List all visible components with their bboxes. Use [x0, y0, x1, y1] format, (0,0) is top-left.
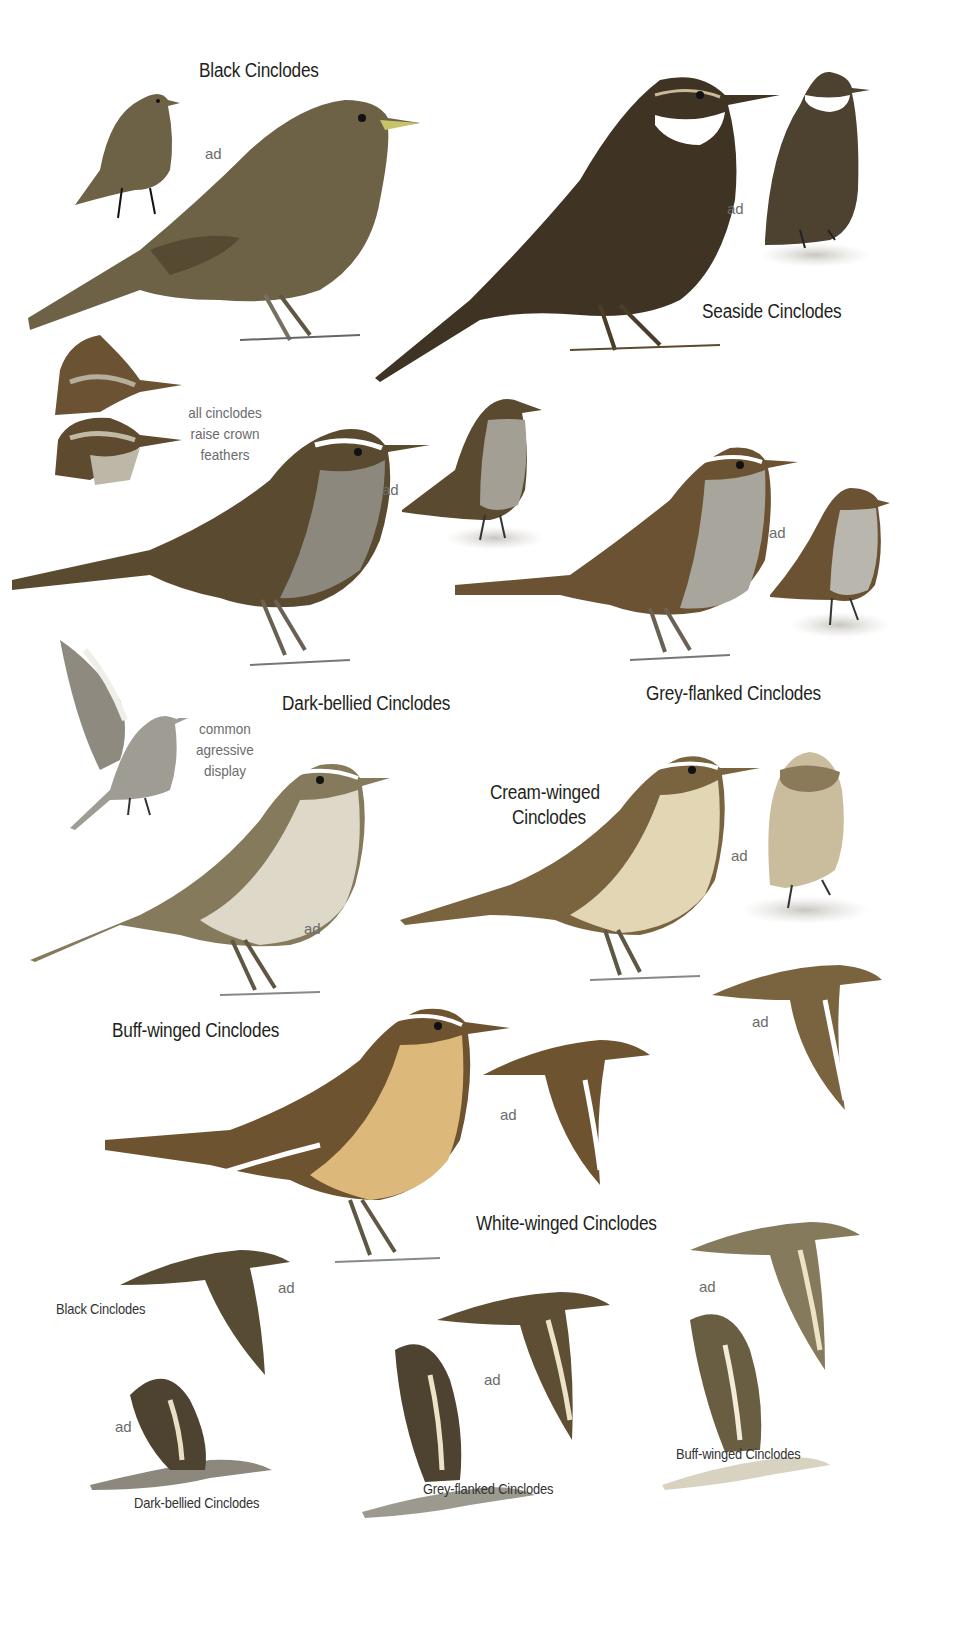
note-aggressive-display: common agressive display [176, 718, 275, 781]
label-black-cinclodes: Black Cinclodes [199, 59, 319, 82]
age-label: ad [699, 1278, 715, 1295]
label-grey-flanked-cinclodes: Grey-flanked Cinclodes [646, 682, 821, 705]
flight-label-black-cinclodes: Black Cinclodes [56, 1300, 145, 1317]
label-dark-bellied-cinclodes: Dark-bellied Cinclodes [282, 692, 450, 715]
seaside-cinclodes-small-illustration [760, 72, 870, 267]
white-winged-cinclodes-large-illustration [105, 1009, 510, 1262]
field-guide-plate: Black Cinclodes ad ad Seaside Cinclodes … [0, 0, 971, 1625]
note-line: feathers [176, 444, 275, 465]
age-label: ad [115, 1418, 131, 1435]
crown-feathers-illustration [55, 335, 182, 485]
black-cinclodes-small-illustration [75, 94, 180, 218]
age-label: ad [731, 847, 747, 864]
note-line: all cinclodes [176, 402, 275, 423]
note-line: display [176, 760, 275, 781]
black-cinclodes-flight-illustration [120, 1250, 290, 1375]
flight-label-grey-flanked-cinclodes: Grey-flanked Cinclodes [423, 1480, 553, 1497]
age-label: ad [205, 145, 221, 162]
label-cream-winged-line1: Cream-winged [490, 781, 600, 804]
note-line: common [176, 718, 275, 739]
flight-label-buff-winged-cinclodes: Buff-winged Cinclodes [676, 1445, 801, 1462]
black-cinclodes-large-illustration [28, 100, 420, 340]
label-seaside-cinclodes: Seaside Cinclodes [702, 300, 842, 323]
dark-bellied-cinclodes-small-illustration [402, 399, 545, 550]
cream-winged-flight-illustration [712, 965, 882, 1110]
note-line: agressive [176, 739, 275, 760]
age-label: ad [304, 920, 320, 937]
buff-winged-cinclodes-large-illustration [30, 764, 390, 995]
note-line: raise crown [176, 423, 275, 444]
label-buff-winged-cinclodes: Buff-winged Cinclodes [112, 1019, 279, 1042]
aggressive-display-illustration [60, 640, 188, 830]
age-label: ad [752, 1013, 768, 1030]
age-label: ad [484, 1371, 500, 1388]
flight-label-dark-bellied-cinclodes: Dark-bellied Cinclodes [134, 1494, 259, 1511]
label-cream-winged-line2: Cinclodes [512, 806, 586, 829]
age-label: ad [278, 1279, 294, 1296]
label-white-winged-cinclodes: White-winged Cinclodes [476, 1212, 657, 1235]
note-crown-feathers: all cinclodes raise crown feathers [176, 402, 275, 465]
cream-winged-cinclodes-front-illustration [740, 752, 870, 924]
grey-flanked-cinclodes-small-illustration [770, 488, 890, 638]
age-label: ad [500, 1106, 516, 1123]
age-label: ad [382, 481, 398, 498]
seaside-cinclodes-large-illustration [375, 77, 780, 382]
age-label: ad [769, 524, 785, 541]
grey-flanked-flight-illustration-upper [437, 1292, 610, 1440]
age-label: ad [727, 200, 743, 217]
buff-winged-flight-illustration-lower [662, 1314, 830, 1490]
